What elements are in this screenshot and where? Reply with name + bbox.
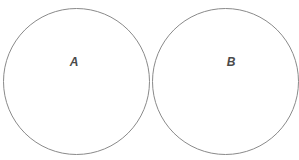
circle-b <box>152 8 299 155</box>
circle-a-label: A <box>70 55 79 69</box>
circle-a <box>3 8 150 155</box>
circle-b-label: B <box>227 55 236 69</box>
